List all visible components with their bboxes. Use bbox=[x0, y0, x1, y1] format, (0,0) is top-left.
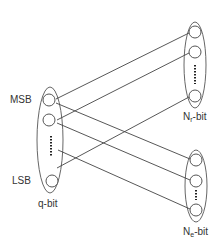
bit-groups bbox=[37, 22, 207, 222]
nr-bit-bit-node bbox=[189, 46, 201, 58]
q-bit-bit-node bbox=[43, 94, 55, 106]
bit-connection-line bbox=[58, 150, 190, 209]
nr-bit-bit-node bbox=[189, 26, 201, 38]
ne-bit-label: Ne-bit bbox=[183, 227, 208, 238]
nr-label-suffix: -bit bbox=[193, 111, 207, 122]
msb-label: MSB bbox=[10, 95, 32, 105]
ne-bit-bit-node bbox=[190, 204, 202, 216]
lsb-label: LSB bbox=[12, 176, 31, 186]
q-bit-bit-node bbox=[46, 175, 58, 187]
nr-bit-bit-node bbox=[189, 90, 201, 102]
bit-mapping-diagram: MSB LSB q-bit Nr-bit Ne-bit bbox=[0, 0, 220, 247]
ne-bit-bit-node bbox=[190, 175, 202, 187]
diagram-canvas bbox=[0, 0, 220, 247]
q-bit-bit-node bbox=[43, 114, 55, 126]
ne-label-suffix: -bit bbox=[194, 226, 208, 237]
connection-lines bbox=[56, 33, 190, 209]
bit-connection-line bbox=[56, 33, 189, 99]
q-bit-label: q-bit bbox=[38, 199, 57, 209]
bit-connection-line bbox=[57, 53, 189, 120]
ne-bit-bit-node bbox=[190, 154, 202, 166]
bit-connection-line bbox=[57, 97, 189, 168]
nr-bit-label: Nr-bit bbox=[183, 112, 206, 123]
